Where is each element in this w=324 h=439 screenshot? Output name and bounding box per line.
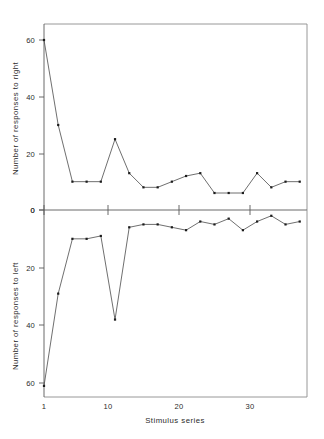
bottom-y-axis-title: Number of responses to left — [11, 262, 20, 370]
data-point — [213, 223, 215, 225]
data-point — [256, 172, 258, 174]
bottom-ytick-label-20: 20 — [26, 264, 35, 273]
xtick-label-10: 10 — [104, 402, 113, 411]
figure-container: 60 40 20 0 Number of responses to right — [0, 0, 324, 439]
top-panel-frame — [44, 24, 307, 210]
data-point — [256, 220, 258, 222]
data-point — [57, 293, 59, 295]
xtick-label-20: 20 — [175, 402, 184, 411]
data-point — [43, 385, 45, 387]
data-point — [128, 172, 130, 174]
data-point — [228, 218, 230, 220]
top-ytick-label-60: 60 — [26, 36, 35, 45]
data-point — [199, 172, 201, 174]
bottom-data-series — [43, 215, 301, 387]
data-point — [299, 220, 301, 222]
data-point — [86, 181, 88, 183]
bottom-panel-frame — [44, 210, 307, 397]
data-point — [270, 215, 272, 217]
top-ytick-label-20: 20 — [26, 150, 35, 159]
data-point — [57, 124, 59, 126]
bottom-panel: 0 20 40 60 Number of responses to left 1… — [11, 206, 307, 425]
data-point — [185, 229, 187, 231]
x-axis-title: Stimulus series — [145, 416, 205, 425]
data-point — [199, 220, 201, 222]
data-point — [270, 186, 272, 188]
top-ytick-label-40: 40 — [26, 93, 35, 102]
top-panel: 60 40 20 0 Number of responses to right — [11, 24, 307, 215]
data-point — [86, 238, 88, 240]
data-point — [157, 223, 159, 225]
data-line — [44, 40, 300, 193]
data-point — [299, 181, 301, 183]
xtick-label-30: 30 — [246, 402, 255, 411]
bottom-ytick-label-40: 40 — [26, 321, 35, 330]
data-point — [284, 223, 286, 225]
data-point — [284, 181, 286, 183]
bottom-ytick-label-0: 0 — [31, 206, 35, 215]
data-point — [213, 192, 215, 194]
data-point — [100, 235, 102, 237]
data-point — [114, 138, 116, 140]
data-point — [128, 226, 130, 228]
data-point — [171, 181, 173, 183]
data-point — [142, 223, 144, 225]
data-point — [157, 186, 159, 188]
data-line — [44, 216, 300, 386]
bottom-y-ticks — [39, 210, 44, 383]
top-y-axis-title: Number of responses to right — [11, 61, 20, 175]
data-point — [43, 39, 45, 41]
data-point — [171, 226, 173, 228]
xtick-label-1: 1 — [42, 402, 46, 411]
dual-line-chart: 60 40 20 0 Number of responses to right — [0, 0, 324, 439]
data-point — [228, 192, 230, 194]
data-point — [100, 181, 102, 183]
data-point — [142, 186, 144, 188]
data-point — [242, 229, 244, 231]
data-point — [185, 175, 187, 177]
data-point — [114, 318, 116, 320]
data-point — [71, 238, 73, 240]
data-point — [71, 181, 73, 183]
top-y-ticks — [39, 40, 44, 210]
data-point — [242, 192, 244, 194]
bottom-ytick-label-60: 60 — [26, 379, 35, 388]
top-data-series — [43, 39, 301, 194]
shared-x-axis — [44, 205, 307, 215]
